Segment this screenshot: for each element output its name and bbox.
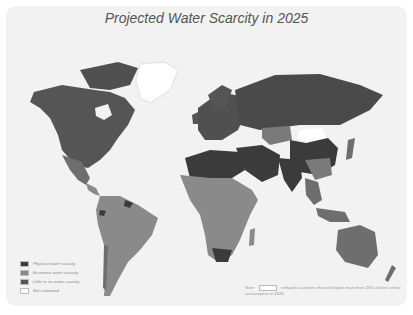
region-japan (346, 138, 355, 160)
legend-item-economic: Economic water scarcity (20, 268, 79, 277)
region-greenland (136, 62, 178, 103)
note-swatch (259, 285, 277, 291)
region-central-america (86, 183, 100, 196)
region-north-america (30, 85, 135, 168)
region-australia (336, 225, 378, 268)
legend-swatch (20, 270, 29, 276)
region-se-asia (305, 178, 322, 205)
legend-label: Little or no water scarcity (33, 279, 79, 284)
legend-swatch (20, 288, 29, 294)
note-prefix: Note: (245, 285, 255, 290)
region-russia (235, 74, 383, 130)
region-new-zealand (385, 265, 396, 282)
region-india (278, 158, 302, 192)
map-note: Note: indicates countries that will impo… (245, 285, 405, 297)
region-madagascar (249, 228, 255, 246)
legend-item-not-estimated: Not estimated (20, 286, 79, 295)
legend-item-little: Little or no water scarcity (20, 277, 79, 286)
region-indonesia (316, 208, 350, 222)
region-kazakhstan (262, 126, 292, 145)
legend-swatch (20, 279, 29, 285)
region-uk (192, 112, 199, 124)
region-north-africa (185, 150, 245, 178)
legend-item-physical: Physical water scarcity (20, 259, 79, 268)
legend-label: Not estimated (33, 288, 59, 293)
legend-swatch (20, 261, 29, 267)
legend-label: Economic water scarcity (33, 270, 78, 275)
legend-label: Physical water scarcity (33, 261, 75, 266)
region-canadian-arctic (80, 62, 138, 90)
legend: Physical water scarcity Economic water s… (20, 259, 79, 295)
